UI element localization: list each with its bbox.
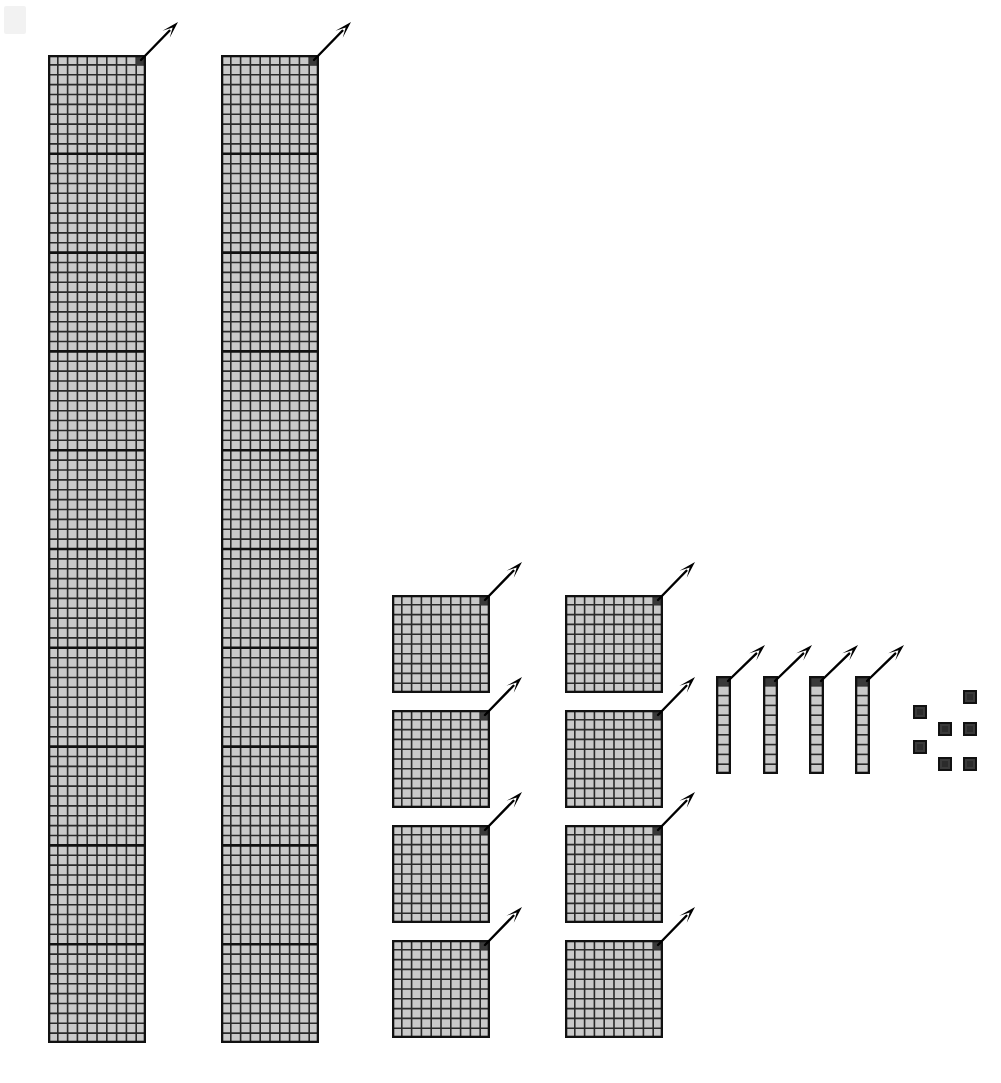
ten-bar-3 xyxy=(809,676,824,774)
hundred-square-1 xyxy=(392,595,490,693)
ten-bar-4 xyxy=(855,676,870,774)
ten-bar-3-grid xyxy=(809,676,824,774)
hundred-square-6-grid xyxy=(565,710,663,808)
hundred-square-7 xyxy=(565,825,663,923)
ten-bar-2 xyxy=(763,676,778,774)
unit-2 xyxy=(913,705,927,719)
hundred-square-8-grid xyxy=(565,940,663,1038)
unit-4 xyxy=(963,722,977,736)
watermark-mark xyxy=(4,6,26,34)
unit-1 xyxy=(963,690,977,704)
thousand-column-2-grid xyxy=(221,55,319,1043)
hundred-square-1-grid xyxy=(392,595,490,693)
hundred-square-2-grid xyxy=(392,710,490,808)
unit-6 xyxy=(938,757,952,771)
hundred-square-3-grid xyxy=(392,825,490,923)
ten-bar-2-grid xyxy=(763,676,778,774)
ten-bar-1-grid xyxy=(716,676,731,774)
hundred-square-8 xyxy=(565,940,663,1038)
hundred-square-2 xyxy=(392,710,490,808)
hundred-square-4-grid xyxy=(392,940,490,1038)
hundred-square-3 xyxy=(392,825,490,923)
thousand-column-2 xyxy=(221,55,319,1043)
hundred-square-5 xyxy=(565,595,663,693)
ten-bar-4-grid xyxy=(855,676,870,774)
unit-3 xyxy=(938,722,952,736)
unit-7 xyxy=(963,757,977,771)
hundred-square-6 xyxy=(565,710,663,808)
unit-5 xyxy=(913,740,927,754)
thousand-column-1-grid xyxy=(48,55,146,1043)
hundred-square-5-grid xyxy=(565,595,663,693)
diagram-canvas: Base-ten place value block diagram 2847 xyxy=(0,0,1001,1083)
hundred-square-4 xyxy=(392,940,490,1038)
ten-bar-1 xyxy=(716,676,731,774)
hundred-square-7-grid xyxy=(565,825,663,923)
thousand-column-1 xyxy=(48,55,146,1043)
